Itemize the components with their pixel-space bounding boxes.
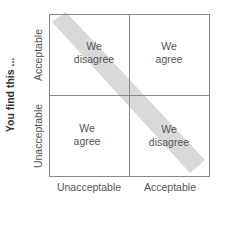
cell-line: disagree — [54, 53, 134, 66]
cell-line: We — [129, 123, 209, 136]
cell-line: disagree — [129, 136, 209, 149]
cell-line: We — [129, 40, 209, 53]
cell-line: agree — [129, 53, 209, 66]
x-tick-acceptable: Acceptable — [144, 181, 196, 193]
cell-bottom-left: We agree — [47, 122, 127, 148]
y-tick-unacceptable: Unacceptable — [32, 104, 44, 168]
cell-line: We — [47, 122, 127, 135]
cell-bottom-right: We disagree — [129, 123, 209, 149]
y-tick-acceptable: Acceptable — [32, 29, 44, 81]
cell-top-right: We agree — [129, 40, 209, 66]
cell-top-left: We disagree — [54, 40, 134, 66]
cell-line: We — [54, 40, 134, 53]
x-tick-unacceptable: Unacceptable — [57, 181, 121, 193]
y-axis-title: You find this ... — [4, 58, 16, 132]
cell-line: agree — [47, 135, 127, 148]
